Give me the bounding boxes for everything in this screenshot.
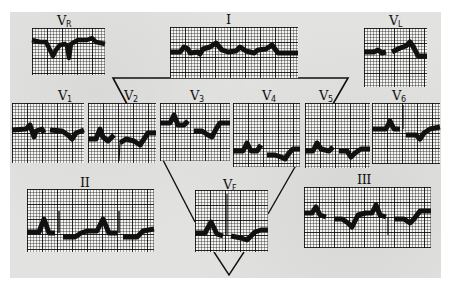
lead-label-i: I <box>226 13 231 28</box>
ecg-strip-v3 <box>160 103 230 161</box>
ecg-strip-v5 <box>305 103 370 168</box>
lead-label-vl: VL <box>389 14 402 29</box>
lead-label-v5: V5 <box>319 89 332 104</box>
lead-label-v4: V4 <box>262 89 275 104</box>
ecg-strip-v2 <box>88 103 156 163</box>
ecg-strip-v6 <box>372 103 440 164</box>
ecg-strip-v1 <box>12 103 84 163</box>
ecg-strip-i <box>170 27 298 78</box>
ecg-strip-vf <box>195 190 268 252</box>
ecg-strip-v4 <box>233 103 300 167</box>
lead-label-v3: V3 <box>190 89 203 104</box>
lead-label-v1: V1 <box>58 89 71 104</box>
ecg-strip-vr <box>32 28 105 75</box>
lead-label-v2: V2 <box>124 89 137 104</box>
ecg-strip-ii <box>27 189 154 252</box>
lead-label-vr: VR <box>57 14 71 29</box>
ecg-strip-iii <box>304 187 431 248</box>
ecg-strip-vl <box>364 28 427 87</box>
lead-label-iii: III <box>357 173 371 188</box>
lead-label-v6: V6 <box>392 89 405 104</box>
